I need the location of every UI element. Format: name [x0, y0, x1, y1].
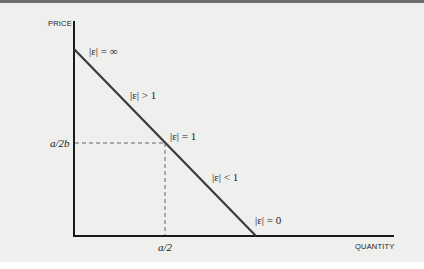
y-axis-label: PRICE: [48, 19, 72, 28]
y-tick-label: a/2b: [50, 137, 70, 149]
elasticity-infinite-label: |ε| = ∞: [89, 45, 118, 57]
elasticity-unit-label: |ε| = 1: [170, 130, 196, 142]
demand-diagram: [0, 0, 424, 269]
elasticity-elastic-label: |ε| > 1: [130, 89, 156, 101]
elasticity-zero-label: |ε| = 0: [255, 214, 281, 226]
x-tick-label: a/2: [158, 241, 172, 253]
x-axis-label: QUANTITY: [355, 242, 395, 251]
elasticity-inelastic-label: |ε| < 1: [212, 171, 238, 183]
